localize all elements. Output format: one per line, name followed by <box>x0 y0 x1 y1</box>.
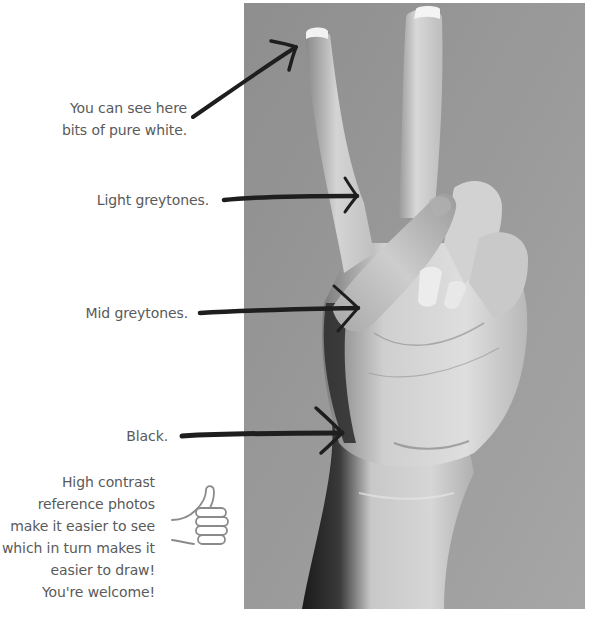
reference-photo <box>244 3 585 609</box>
hand-peace-sign-image <box>244 3 585 609</box>
caption-pure-white: You can see here bits of pure white. <box>27 97 187 141</box>
tip-text: High contrast reference photos make it e… <box>0 471 155 603</box>
caption-black: Black. <box>48 425 168 447</box>
caption-mid-greytones: Mid greytones. <box>0 302 188 324</box>
thumbs-up-icon <box>168 484 234 552</box>
cutoff-text-line: ​ <box>0 611 592 620</box>
cutoff-text-glyphs: ​ <box>40 611 592 620</box>
caption-light-greytones: Light greytones. <box>9 189 209 211</box>
